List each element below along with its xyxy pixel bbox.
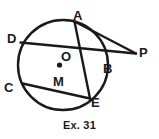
- geometry-figure: A D O P B C M E Ex. 31: [0, 0, 159, 139]
- point-label-c: C: [4, 81, 13, 94]
- figure-caption: Ex. 31: [0, 119, 159, 131]
- point-label-o: O: [61, 50, 71, 63]
- point-label-e: E: [91, 96, 100, 109]
- chord-a-e: [75, 22, 91, 99]
- point-label-m: M: [53, 75, 64, 88]
- point-label-b: B: [103, 62, 112, 75]
- point-label-a: A: [73, 9, 82, 22]
- point-label-p: P: [139, 46, 148, 59]
- point-label-d: D: [7, 32, 16, 45]
